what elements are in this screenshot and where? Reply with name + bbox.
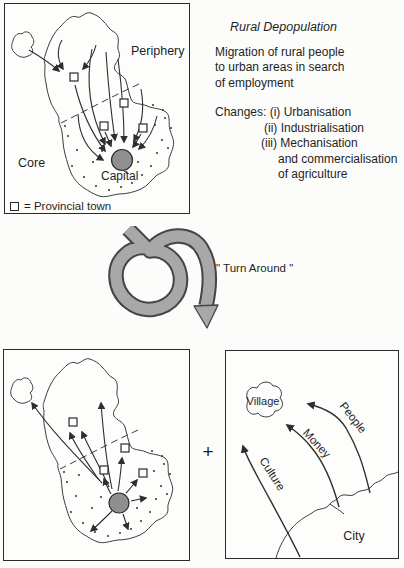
changes-line-1: Changes: (i) Urbanisation — [215, 105, 401, 121]
core-periphery-panel-after — [3, 349, 190, 561]
info-title: Rural Depopulation — [230, 20, 401, 36]
capital-label: Capital — [101, 169, 138, 183]
culture-flow-label: Culture — [257, 455, 287, 493]
core-label: Core — [18, 156, 45, 170]
periphery-label: Periphery — [131, 44, 185, 58]
spiral-arrowhead — [194, 305, 218, 328]
turnaround-label: " Turn Around " — [216, 262, 293, 274]
provincial-town-squares — [69, 418, 147, 477]
changes-line-3: (iii) Mechanisation — [215, 136, 401, 152]
city-label: City — [343, 529, 365, 543]
village-label: Village — [247, 395, 280, 407]
island-outline — [12, 32, 34, 57]
capital-circle — [109, 493, 129, 513]
provincial-town-legend-icon — [10, 202, 19, 211]
map-before-svg — [5, 4, 189, 213]
spiral-arrow-icon — [106, 226, 226, 336]
map-after-svg — [4, 350, 189, 560]
city-village-panel: Village People Money Culture City — [225, 350, 399, 559]
plus-sign: + — [197, 441, 219, 463]
island-outline — [11, 378, 33, 403]
info-description: Migration of rural people to urban areas… — [215, 45, 401, 92]
turnaround-spiral — [106, 226, 226, 336]
legend: = Provincial town — [10, 200, 111, 212]
changes-line-4: and commercialisation — [215, 152, 401, 168]
migration-arrows-inward — [29, 40, 157, 160]
migration-arrows-outward — [32, 403, 146, 531]
capital-circle — [112, 150, 133, 171]
changes-line-5: of agriculture — [215, 167, 401, 183]
changes-line-2: (ii) Industrialisation — [215, 121, 401, 137]
core-periphery-panel-before: Periphery Core Capital = Provincial town — [4, 3, 190, 214]
info-block: Rural Depopulation Migration of rural pe… — [215, 20, 401, 183]
people-flow-label: People — [337, 400, 369, 436]
city-village-svg: Village People Money Culture City — [226, 351, 398, 558]
legend-text: = Provincial town — [24, 200, 111, 212]
